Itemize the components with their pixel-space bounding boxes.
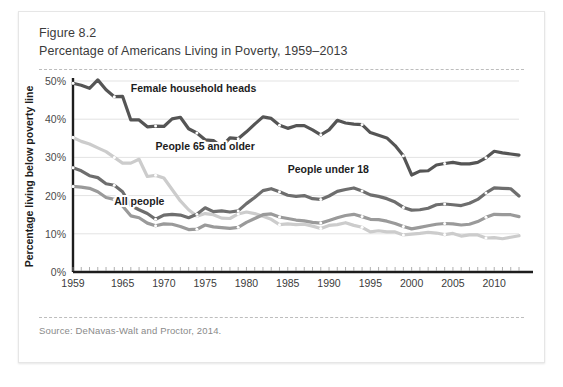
x-axis-tick-label: 1965 <box>111 277 135 289</box>
series-marker <box>361 226 364 229</box>
series-label: All people <box>114 195 164 207</box>
x-axis-tick-label: 1970 <box>152 277 176 289</box>
series-marker <box>237 226 240 229</box>
y-axis-tick-label: 30% <box>45 151 66 163</box>
series-marker <box>195 228 198 231</box>
series-line <box>73 168 519 220</box>
series-marker <box>402 233 405 236</box>
series-marker <box>195 213 198 216</box>
series-marker <box>443 203 446 206</box>
series-marker <box>154 174 157 177</box>
series-marker <box>319 227 322 230</box>
y-axis-tick-label: 40% <box>45 113 66 125</box>
x-axis-tick-label: 1985 <box>276 277 300 289</box>
series-marker <box>319 222 322 225</box>
source-note: Source: DeNavas-Walt and Proctor, 2014. <box>39 325 524 336</box>
series-marker <box>113 184 116 187</box>
series-label: People under 18 <box>288 163 369 175</box>
series-marker <box>361 190 364 193</box>
series-marker <box>72 185 75 188</box>
series-marker <box>113 156 116 159</box>
series-marker <box>484 216 487 219</box>
series-marker <box>237 209 240 212</box>
series-marker <box>402 154 405 157</box>
figure-header: Figure 8.2 Percentage of Americans Livin… <box>19 12 544 60</box>
series-marker <box>154 224 157 227</box>
series-marker <box>278 124 281 127</box>
series-marker <box>361 123 364 126</box>
series-marker <box>278 223 281 226</box>
series-marker <box>319 198 322 201</box>
figure-title: Percentage of Americans Living in Povert… <box>39 42 524 60</box>
series-label: Female household heads <box>131 82 257 94</box>
x-axis-tick-label: 1959 <box>61 277 85 289</box>
series-marker <box>319 133 322 136</box>
series-marker <box>237 212 240 215</box>
x-axis-tick-label: 1995 <box>359 277 383 289</box>
divider-bottom <box>39 317 524 318</box>
series-marker <box>402 206 405 209</box>
series-marker <box>484 191 487 194</box>
series-marker <box>154 218 157 221</box>
chart-plot-area: 0%10%20%30%40%50%19591965197019751980198… <box>19 70 546 308</box>
x-axis-tick-label: 2010 <box>483 277 507 289</box>
y-axis-tick-label: 10% <box>45 228 66 240</box>
x-axis-tick-label: 1990 <box>317 277 341 289</box>
poverty-line-chart: 0%10%20%30%40%50%19591965197019751980198… <box>19 70 546 308</box>
series-marker <box>72 166 75 169</box>
series-marker <box>484 156 487 159</box>
x-axis-tick-label: 2000 <box>400 277 424 289</box>
series-marker <box>443 162 446 165</box>
y-axis-tick-label: 50% <box>45 75 66 87</box>
series-marker <box>278 190 281 193</box>
series-marker <box>154 125 157 128</box>
series-label: People 65 and older <box>156 140 255 152</box>
x-axis-tick-label: 2005 <box>441 277 465 289</box>
series-marker <box>72 136 75 139</box>
series-marker <box>195 131 198 134</box>
series-marker <box>443 222 446 225</box>
y-axis-title: Percentage living below poverty line <box>23 86 35 268</box>
y-axis-tick-label: 20% <box>45 190 66 202</box>
series-marker <box>361 215 364 218</box>
figure-card: Figure 8.2 Percentage of Americans Livin… <box>18 11 545 363</box>
series-marker <box>72 82 75 85</box>
series-marker <box>402 225 405 228</box>
series-marker <box>443 233 446 236</box>
series-marker <box>278 215 281 218</box>
x-axis-tick-label: 1980 <box>235 277 259 289</box>
series-marker <box>113 95 116 98</box>
x-axis-tick-label: 1975 <box>193 277 217 289</box>
series-marker <box>484 237 487 240</box>
figure-number: Figure 8.2 <box>39 25 524 42</box>
